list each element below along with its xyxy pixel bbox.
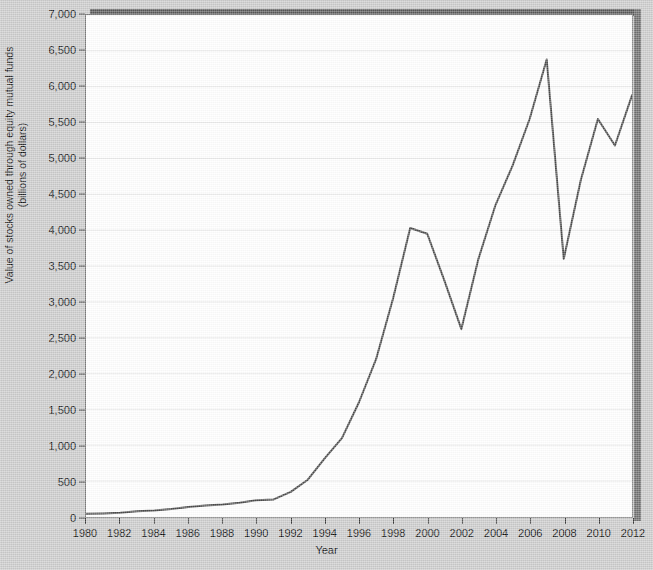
x-tick-mark bbox=[119, 518, 120, 524]
x-tick-mark bbox=[462, 518, 463, 524]
x-tick-mark bbox=[393, 518, 394, 524]
y-tick-label: 3,500 bbox=[48, 260, 76, 272]
x-tick-mark bbox=[599, 518, 600, 524]
x-tick-label: 1980 bbox=[73, 527, 97, 539]
x-tick-mark bbox=[565, 518, 566, 524]
x-tick-label: 2002 bbox=[450, 527, 474, 539]
x-tick-mark bbox=[222, 518, 223, 524]
x-tick-mark bbox=[188, 518, 189, 524]
y-tick-label: 3,000 bbox=[48, 296, 76, 308]
chart-figure: 05001,0001,5002,0002,5003,0003,5004,0004… bbox=[0, 0, 653, 570]
x-tick-label: 1982 bbox=[107, 527, 131, 539]
y-tick-label: 0 bbox=[70, 512, 76, 524]
x-tick-label: 2010 bbox=[587, 527, 611, 539]
x-tick-label: 2008 bbox=[552, 527, 576, 539]
x-tick-label: 2012 bbox=[621, 527, 645, 539]
x-tick-mark bbox=[256, 518, 257, 524]
x-tick-label: 1996 bbox=[347, 527, 371, 539]
x-tick-label: 1994 bbox=[313, 527, 337, 539]
x-tick-label: 1984 bbox=[141, 527, 165, 539]
x-tick-label: 1998 bbox=[381, 527, 405, 539]
x-tick-mark bbox=[85, 518, 86, 524]
y-axis-title: Value of stocks owned through equity mut… bbox=[3, 0, 29, 365]
x-tick-mark bbox=[325, 518, 326, 524]
y-tick-label: 2,500 bbox=[48, 332, 76, 344]
data-series-line bbox=[86, 15, 632, 517]
x-tick-label: 2004 bbox=[484, 527, 508, 539]
y-tick-label: 6,000 bbox=[48, 80, 76, 92]
x-tick-mark bbox=[496, 518, 497, 524]
x-tick-label: 1988 bbox=[210, 527, 234, 539]
y-tick-label: 6,500 bbox=[48, 44, 76, 56]
x-tick-label: 1990 bbox=[244, 527, 268, 539]
x-tick-label: 1986 bbox=[176, 527, 200, 539]
plot-shadow-right bbox=[634, 9, 641, 521]
x-axis-title: Year bbox=[0, 544, 653, 556]
x-tick-label: 2000 bbox=[415, 527, 439, 539]
x-tick-mark bbox=[530, 518, 531, 524]
y-tick-label: 500 bbox=[58, 476, 76, 488]
y-tick-label: 1,000 bbox=[48, 440, 76, 452]
y-tick-label: 1,500 bbox=[48, 404, 76, 416]
x-tick-mark bbox=[359, 518, 360, 524]
y-tick-label: 5,000 bbox=[48, 152, 76, 164]
plot-area bbox=[85, 14, 633, 518]
y-tick-label: 5,500 bbox=[48, 116, 76, 128]
x-tick-label: 1992 bbox=[278, 527, 302, 539]
y-tick-label: 4,000 bbox=[48, 224, 76, 236]
x-tick-mark bbox=[154, 518, 155, 524]
y-tick-label: 7,000 bbox=[48, 8, 76, 20]
x-tick-mark bbox=[291, 518, 292, 524]
x-tick-label: 2006 bbox=[518, 527, 542, 539]
x-tick-mark bbox=[428, 518, 429, 524]
y-tick-label: 4,500 bbox=[48, 188, 76, 200]
y-tick-label: 2,000 bbox=[48, 368, 76, 380]
